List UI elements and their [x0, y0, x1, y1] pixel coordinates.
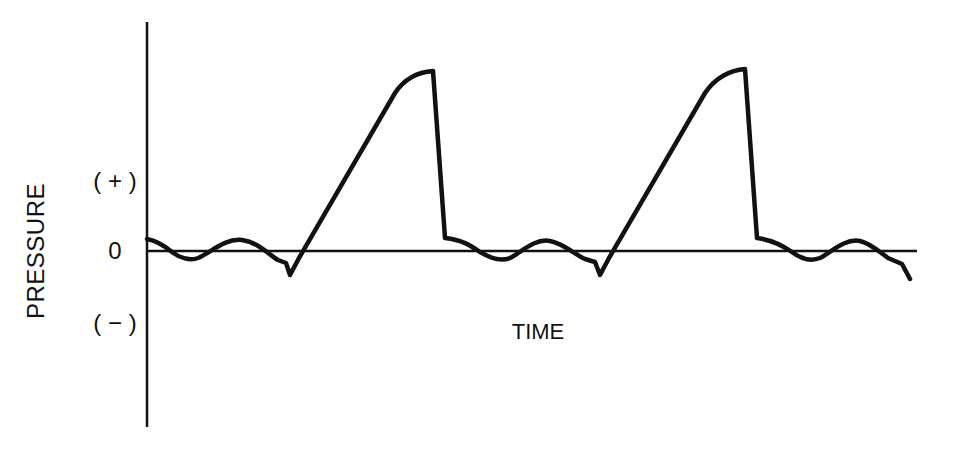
pressure-waveform	[147, 69, 910, 279]
y-tick-zero: 0	[108, 237, 121, 265]
y-tick-positive: ( + )	[93, 167, 136, 195]
pressure-time-chart	[0, 0, 955, 452]
y-tick-negative: ( − )	[93, 309, 136, 337]
y-axis-label: PRESSURE	[22, 183, 50, 319]
x-axis-label: TIME	[512, 319, 565, 345]
